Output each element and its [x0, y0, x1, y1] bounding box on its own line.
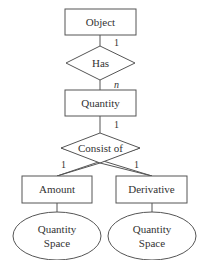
relationship-consist-of: Consist of	[61, 133, 140, 163]
attribute-amount-label-line1: Quantity	[38, 223, 77, 235]
entity-amount-label: Amount	[39, 183, 75, 195]
attribute-amount-quantity-space: Quantity Space	[13, 212, 101, 260]
attribute-derivative-quantity-space: Quantity Space	[108, 212, 196, 260]
entity-derivative-label: Derivative	[128, 183, 175, 195]
cardinality-quantity-consist: 1	[114, 119, 119, 130]
entity-quantity: Quantity	[65, 90, 136, 116]
attribute-derivative-label-line2: Space	[139, 237, 165, 249]
relationship-has: Has	[66, 46, 135, 80]
entity-quantity-label: Quantity	[81, 97, 120, 109]
relationship-has-label: Has	[92, 57, 109, 69]
cardinality-object-has: 1	[114, 37, 119, 48]
entity-object: Object	[65, 9, 136, 35]
entity-object-label: Object	[86, 16, 115, 28]
cardinality-consist-amount: 1	[61, 159, 66, 170]
cardinality-consist-derivative: 1	[134, 159, 139, 170]
entity-amount: Amount	[22, 176, 92, 203]
er-diagram: Object 1 Has n Quantity 1 Consist of 1 1…	[0, 0, 207, 260]
attribute-amount-label-line2: Space	[44, 237, 70, 249]
relationship-consist-of-label: Consist of	[78, 142, 123, 154]
entity-derivative: Derivative	[116, 176, 187, 203]
attribute-derivative-label-line1: Quantity	[133, 223, 172, 235]
edge-cross-right	[100, 163, 152, 176]
cardinality-has-quantity: n	[114, 79, 119, 90]
